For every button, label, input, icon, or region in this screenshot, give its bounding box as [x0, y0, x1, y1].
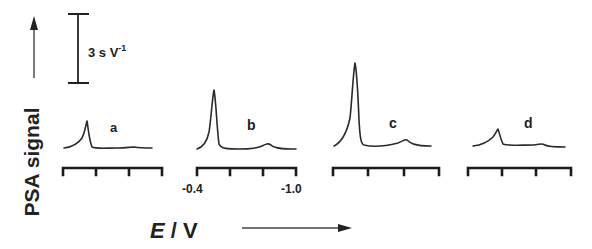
panel-d: d — [468, 115, 571, 175]
x-tick-start-label: -0.4 — [182, 182, 203, 196]
scale-bar — [68, 14, 89, 83]
y-axis-arrow-icon — [30, 16, 38, 78]
psa-chart: PSA signal 3 s V-1 a b -0.4 -1.0 c d E /… — [0, 0, 592, 249]
y-axis-label: PSA signal — [20, 108, 43, 217]
scale-bar-label: 3 s V-1 — [88, 43, 126, 60]
panel-label-b: b — [247, 117, 256, 133]
panel-c: c — [333, 63, 439, 175]
panel-a: a — [63, 120, 162, 175]
panel-b: b -0.4 -1.0 — [182, 90, 302, 196]
panel-label-a: a — [110, 120, 118, 135]
x-axis-d — [468, 168, 571, 175]
trace-d — [473, 129, 565, 147]
x-axis-arrow-icon — [242, 224, 352, 232]
panel-label-c: c — [389, 115, 397, 131]
trace-c — [334, 63, 431, 146]
x-axis-label: E / V — [150, 218, 198, 243]
panel-label-d: d — [524, 115, 533, 131]
x-axis-b — [197, 168, 296, 175]
x-axis-a — [63, 168, 162, 175]
trace-a — [64, 121, 152, 148]
x-axis-c — [333, 168, 439, 175]
x-tick-end-label: -1.0 — [281, 182, 302, 196]
